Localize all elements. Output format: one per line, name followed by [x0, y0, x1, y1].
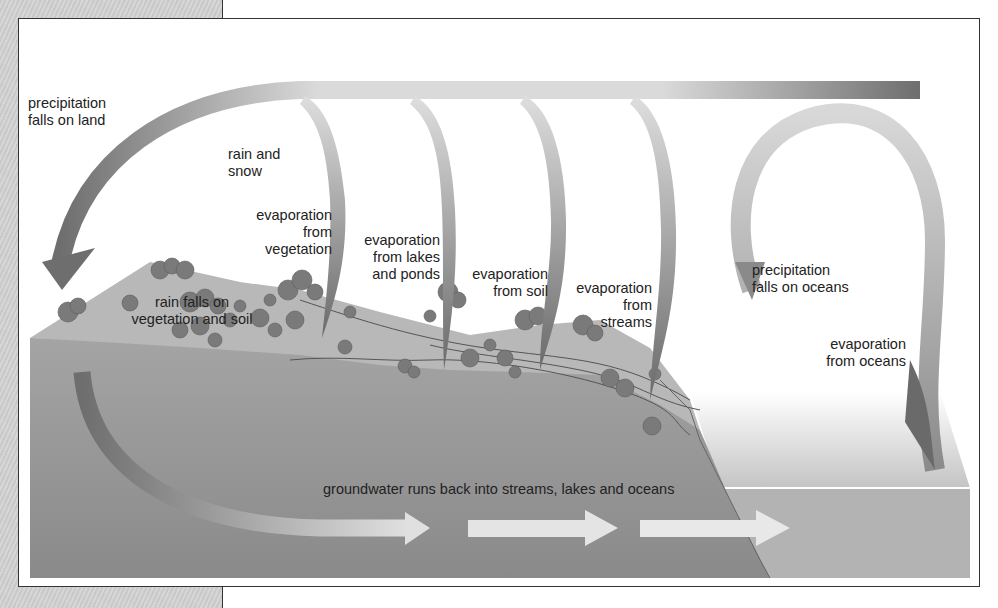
label-evaporation-streams: evaporation from streams	[572, 280, 652, 331]
label-line: precipitation	[28, 95, 106, 112]
label-line: from lakes	[360, 249, 440, 266]
label-line: falls on oceans	[752, 279, 849, 296]
label-precipitation-oceans: precipitation falls on oceans	[752, 262, 849, 296]
label-line: evaporation	[808, 336, 906, 353]
label-line: from	[572, 297, 652, 314]
label-line: falls on land	[28, 112, 106, 129]
label-line: streams	[572, 314, 652, 331]
label-evaporation-soil: evaporation from soil	[468, 266, 548, 300]
label-line: evaporation	[468, 266, 548, 283]
label-line: from	[252, 224, 332, 241]
label-line: evaporation	[360, 232, 440, 249]
label-line: rain falls on	[122, 294, 262, 311]
label-line: snow	[228, 163, 280, 180]
label-line: vegetation and soil	[122, 311, 262, 328]
label-evaporation-vegetation: evaporation from vegetation	[252, 207, 332, 258]
label-line: from soil	[468, 283, 548, 300]
label-line: and ponds	[360, 266, 440, 283]
label-line: precipitation	[752, 262, 849, 279]
label-precipitation-land: precipitation falls on land	[28, 95, 106, 129]
label-line: evaporation	[252, 207, 332, 224]
label-evaporation-lakes: evaporation from lakes and ponds	[360, 232, 440, 283]
label-line: vegetation	[252, 241, 332, 258]
label-groundwater: groundwater runs back into streams, lake…	[323, 481, 674, 498]
label-line: evaporation	[572, 280, 652, 297]
label-line: from oceans	[808, 353, 906, 370]
label-rain-and-snow: rain and snow	[228, 146, 280, 180]
label-rain-falls-vegetation: rain falls on vegetation and soil	[122, 294, 262, 328]
label-evaporation-oceans: evaporation from oceans	[808, 336, 906, 370]
label-line: rain and	[228, 146, 280, 163]
